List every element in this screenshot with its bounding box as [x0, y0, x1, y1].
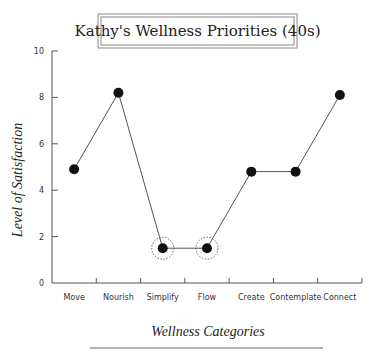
- y-tick-label: 4: [39, 186, 44, 195]
- x-tick-label: Move: [63, 293, 85, 302]
- x-tick-label: Simplify: [147, 293, 179, 302]
- x-tick-label: Nourish: [103, 293, 134, 302]
- y-tick-label: 8: [39, 93, 44, 102]
- x-tick-label: Create: [238, 293, 265, 302]
- data-point-flow: [202, 243, 212, 253]
- x-tick-label: Connect: [323, 293, 356, 302]
- axes: 0246810MoveNourishSimplifyFlowCreateCont…: [34, 47, 362, 302]
- x-tick-label: Flow: [198, 293, 217, 302]
- data-point-simplify: [158, 243, 168, 253]
- chart-title: Kathy's Wellness Priorities (40s): [75, 22, 321, 40]
- x-tick-label: Contemplate: [270, 293, 322, 302]
- x-axis-title: Wellness Categories: [151, 324, 265, 339]
- y-axis-title: Level of Satisfaction: [10, 123, 25, 238]
- data-point-connect: [335, 90, 345, 100]
- y-tick-label: 6: [39, 140, 44, 149]
- chart-title-box: Kathy's Wellness Priorities (40s): [75, 14, 321, 48]
- data-point-nourish: [113, 88, 123, 98]
- y-tick-label: 2: [39, 233, 44, 242]
- data-point-create: [246, 167, 256, 177]
- data-series: [69, 88, 345, 259]
- y-tick-label: 0: [39, 279, 44, 288]
- y-tick-label: 10: [34, 47, 44, 56]
- wellness-line-chart: Kathy's Wellness Priorities (40s) Level …: [0, 0, 377, 364]
- data-point-contemplate: [291, 167, 301, 177]
- data-point-move: [69, 164, 79, 174]
